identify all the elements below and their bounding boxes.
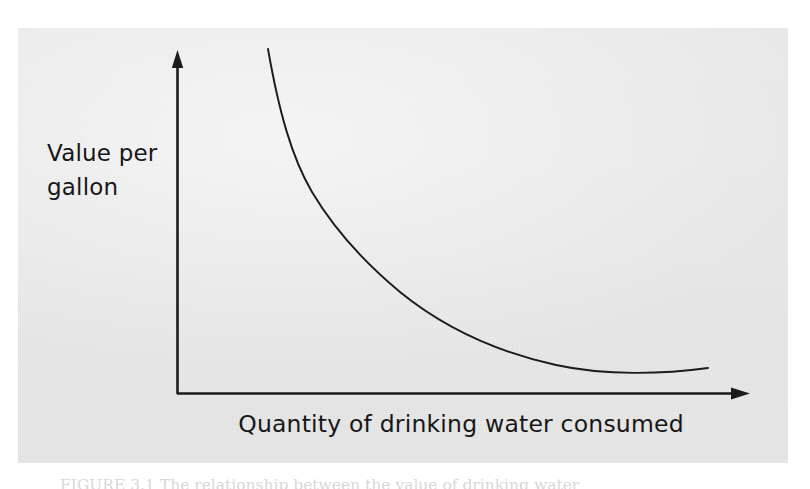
y-axis-label: Value per gallon	[47, 136, 172, 204]
figure-caption: FIGURE 3.1 The relationship between the …	[60, 476, 750, 489]
value-curve	[268, 49, 708, 373]
x-axis-arrowhead	[731, 388, 750, 400]
y-axis-arrowhead	[172, 50, 183, 68]
figure-page: Value per gallon Quantity of drinking wa…	[0, 0, 810, 489]
x-axis-label: Quantity of drinking water consumed	[177, 409, 745, 439]
